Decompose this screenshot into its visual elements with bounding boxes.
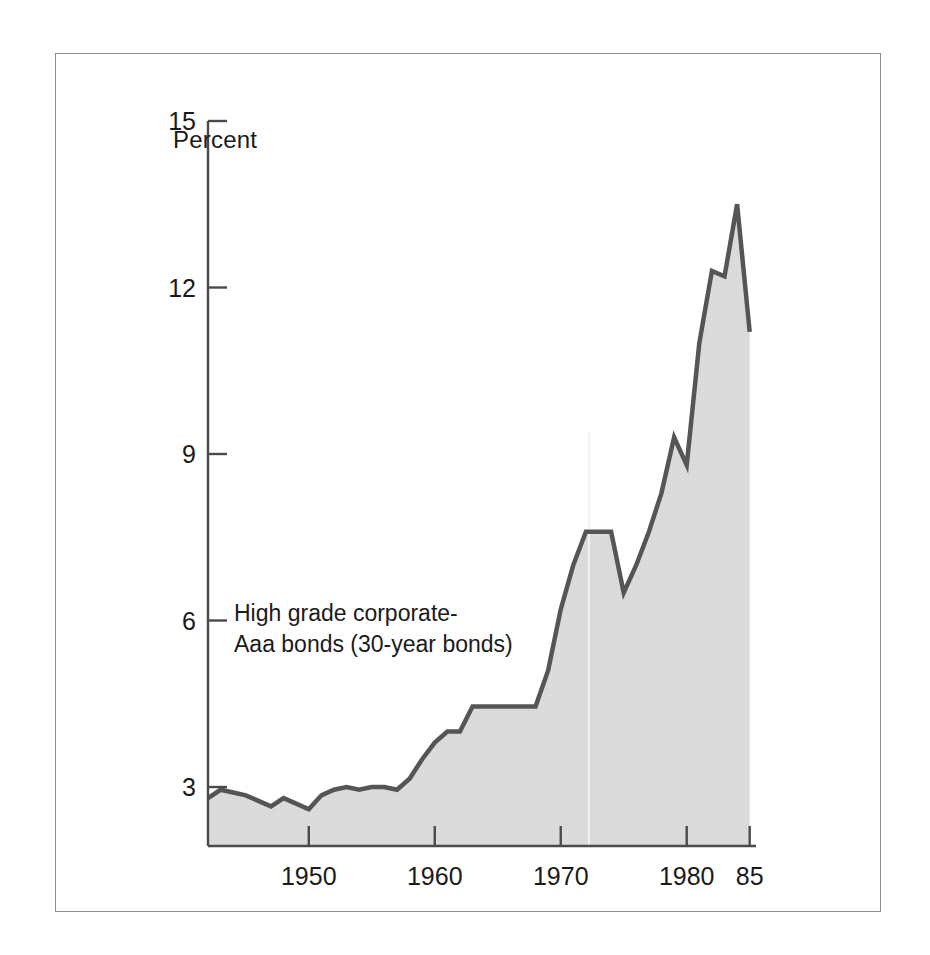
y-axis-tick-label: 15: [150, 107, 196, 136]
series-annotation-line-2: Aaa bonds (30-year bonds): [234, 629, 513, 660]
series-annotation: High grade corporate- Aaa bonds (30-year…: [234, 598, 513, 660]
x-axis-tick-label: 1950: [281, 862, 337, 891]
plot-group: [208, 121, 756, 846]
chart-area: Percent High grade corporate- Aaa bonds …: [56, 54, 882, 913]
x-axis-tick-label: 1970: [533, 862, 589, 891]
x-axis-tick-label: 1960: [407, 862, 463, 891]
x-axis-tick-label: 85: [736, 862, 764, 891]
figure-page: Percent High grade corporate- Aaa bonds …: [0, 0, 930, 955]
y-axis-tick-label: 12: [150, 273, 196, 302]
series-area-fill: [208, 204, 750, 846]
y-axis-tick-label: 3: [150, 773, 196, 802]
x-axis-tick-label: 1980: [659, 862, 715, 891]
y-axis-tick-label: 9: [150, 440, 196, 469]
figure-frame: Percent High grade corporate- Aaa bonds …: [55, 53, 881, 912]
series-annotation-line-1: High grade corporate-: [234, 598, 513, 629]
y-axis-tick-label: 6: [150, 606, 196, 635]
